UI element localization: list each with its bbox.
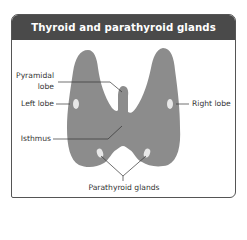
right-lobe-spot (167, 99, 173, 109)
thyroid-gland-shape (67, 48, 180, 167)
parathyroid-glands-label: Parathyroid glands (88, 183, 160, 192)
left-lobe-label: Left lobe (10, 99, 54, 108)
right-lobe-label: Right lobe (192, 99, 231, 108)
pyramidal-lobe-label-line2: lobe (14, 82, 54, 91)
left-lobe-spot (73, 99, 79, 109)
isthmus-label: Isthmus (10, 134, 51, 143)
pyramidal-lobe-label-line1: Pyramidal (14, 71, 54, 80)
